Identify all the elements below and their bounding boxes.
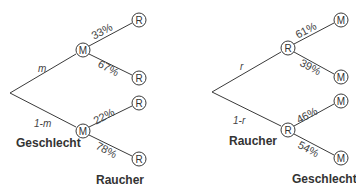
svg-text:R: R [284, 43, 291, 54]
edge-label-m: m [38, 63, 46, 74]
prob-label: 33% [89, 20, 114, 41]
prob-label: 22% [91, 105, 116, 126]
prob-label: 67% [96, 57, 121, 78]
node-m-leaf: M [334, 13, 348, 27]
svg-text:R: R [284, 125, 291, 136]
probability-trees: m 1-m 33% 67% 22% 78% M M R R R R Geschl… [0, 0, 356, 196]
svg-text:M: M [337, 72, 345, 83]
svg-text:R: R [135, 15, 142, 26]
edge-label-r: r [240, 61, 244, 72]
svg-text:R: R [135, 98, 142, 109]
svg-text:M: M [79, 45, 87, 56]
level-label-first: Geschlecht [16, 136, 81, 150]
level-label-second: Raucher [96, 173, 144, 187]
tree-left: m 1-m 33% 67% 22% 78% M M R R R R Geschl… [10, 13, 146, 187]
prob-label: 54% [296, 138, 321, 159]
node-r-bottom: R [281, 123, 295, 137]
node-r-leaf: R [132, 71, 146, 85]
svg-text:R: R [135, 73, 142, 84]
prob-label: 78% [94, 139, 119, 160]
edge-label-1-r: 1-r [233, 115, 246, 126]
tree-right: r 1-r 61% 39% 46% 54% R R M M M M Rauche… [212, 13, 356, 186]
node-r-leaf: R [132, 96, 146, 110]
node-m-top: M [76, 43, 90, 57]
node-m-leaf: M [334, 70, 348, 84]
node-r-top: R [281, 41, 295, 55]
node-m-leaf: M [334, 94, 348, 108]
svg-text:M: M [337, 15, 345, 26]
svg-text:M: M [337, 96, 345, 107]
node-r-leaf: R [132, 13, 146, 27]
edge-label-1-m: 1-m [34, 118, 51, 129]
node-r-leaf: R [132, 152, 146, 166]
prob-label: 39% [298, 56, 323, 77]
prob-label: 46% [294, 104, 319, 125]
node-m-leaf: M [334, 151, 348, 165]
level-label-second: Geschlecht [292, 172, 356, 186]
svg-text:M: M [337, 153, 345, 164]
level-label-first: Raucher [229, 134, 277, 148]
svg-text:R: R [135, 154, 142, 165]
svg-text:M: M [79, 126, 87, 137]
